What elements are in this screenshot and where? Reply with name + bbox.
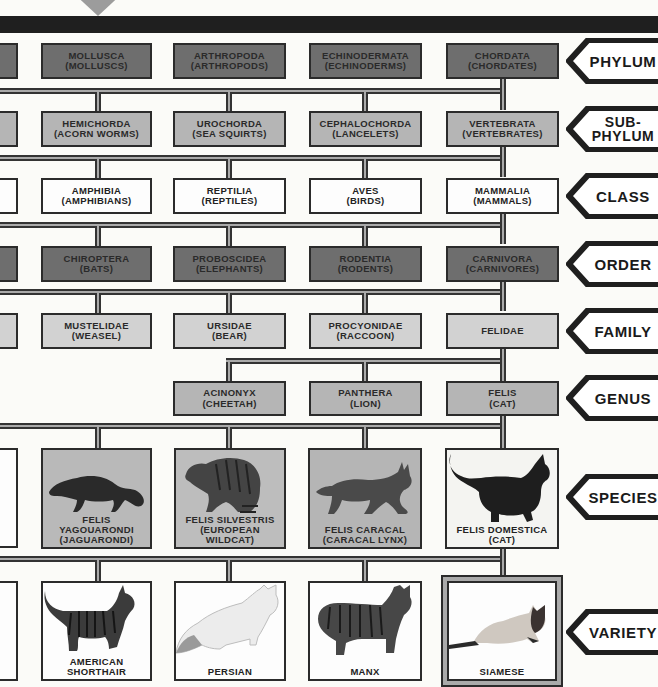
caption-line-3: (CAT)	[447, 535, 557, 545]
connector-class	[0, 155, 506, 161]
american-shorthair-illustration-icon	[43, 583, 150, 659]
connector-family	[0, 289, 506, 295]
variety-caption: SIAMESE	[449, 667, 555, 677]
connector-caracal	[362, 427, 368, 449]
persian-cat-illustration-icon	[176, 583, 284, 659]
subphylum-hemichorda-box: HEMICHORDA (ACORN WORMS)	[41, 111, 152, 147]
subphylum-cephalochorda-box: CEPHALOCHORDA (LANCELETS)	[309, 111, 422, 147]
connector-acinonyx	[226, 362, 232, 382]
taxon-name: PANTHERA	[338, 388, 392, 399]
taxon-name: ACINONYX	[203, 388, 256, 399]
family-procyonidae-box: PROCYONIDAE (RACCOON)	[309, 313, 422, 349]
rank-label-text: FAMILY	[588, 308, 658, 354]
connector-rodentia	[362, 226, 368, 246]
taxon-common-name: (ACORN WORMS)	[54, 129, 139, 140]
family-mustelidae-box: MUSTELIDAE (WEASEL)	[41, 313, 152, 349]
connector-felis-down	[500, 415, 506, 450]
species-caracal-card: FELIS CARACAL (CARACAL LYNX)	[308, 448, 422, 549]
species-silvestris-card: FELIS SILVESTRIS (EUROPEAN WILDCAT)	[174, 448, 286, 549]
rank-label-text: SPECIES	[588, 474, 658, 520]
taxon-common-name: (CAT)	[489, 399, 516, 410]
partial-order-box	[0, 246, 18, 282]
rank-label-text: GENUS	[588, 375, 658, 421]
connector-hemichorda	[95, 92, 101, 112]
genus-acinonyx-box: ACINONYX (CHEETAH)	[173, 381, 286, 416]
variety-caption: AMERICAN SHORTHAIR	[43, 657, 150, 677]
connector-chiroptera	[95, 226, 101, 246]
class-mammalia-box: MAMMALIA (MAMMALS)	[446, 178, 559, 214]
taxon-common-name: (ELEPHANTS)	[196, 264, 263, 275]
species-caption: FELIS SILVESTRIS (EUROPEAN WILDCAT)	[176, 515, 284, 545]
taxon-common-name: (ARTHROPODS)	[191, 61, 269, 72]
order-rodentia-box: RODENTIA (RODENTS)	[309, 246, 422, 282]
rank-label-text: SUB- PHYLUM	[588, 106, 658, 152]
connector-cephalochorda	[362, 92, 368, 112]
taxon-common-name: (BATS)	[80, 264, 113, 275]
connector-amphibia	[95, 159, 101, 179]
family-felidae-box: FELIDAE	[446, 313, 559, 349]
rank-label-variety: VARIETY	[566, 609, 658, 655]
connector-manx	[362, 560, 368, 582]
taxon-common-name: (MAMMALS)	[473, 196, 532, 207]
partial-phylum-box	[0, 43, 18, 79]
taxon-common-name: (RODENTS)	[338, 264, 393, 275]
partial-variety-box	[0, 581, 18, 681]
taxon-common-name: (WEASEL)	[72, 331, 121, 342]
taxon-common-name: (SEA SQUIRTS)	[192, 129, 266, 140]
connector-persian	[226, 560, 232, 582]
species-caption: FELIS YAGOUARONDI (JAGUARONDI)	[43, 515, 150, 545]
domestic-cat-illustration-icon	[447, 450, 557, 530]
rank-label-order: ORDER	[566, 241, 658, 287]
species-caption: FELIS DOMESTICA (CAT)	[447, 525, 557, 545]
caption-line-2: SIAMESE	[449, 667, 555, 677]
taxon-name: FELIS	[488, 388, 516, 399]
class-reptilia-box: REPTILIA (REPTILES)	[173, 178, 286, 214]
rank-label-text: PHYLUM	[588, 38, 658, 84]
phylum-echinodermata-box: ECHINODERMATA (ECHINODERMS)	[309, 43, 422, 79]
phylum-chordata-box: CHORDATA (CHORDATES)	[446, 43, 559, 79]
rank-label-text: ORDER	[588, 241, 658, 287]
european-wildcat-illustration-icon	[176, 450, 284, 520]
caption-line-3: WILDCAT)	[176, 535, 284, 545]
variety-american-shorthair-card: AMERICAN SHORTHAIR	[41, 581, 152, 681]
connector-mustelidae	[95, 293, 101, 313]
variety-persian-card: PERSIAN	[174, 581, 286, 681]
connector-proboscidea	[226, 226, 232, 246]
taxon-common-name: (CHORDATES)	[468, 61, 537, 72]
connector-order	[0, 222, 506, 228]
genus-panthera-box: PANTHERA (LION)	[309, 381, 422, 416]
connector-silvestris	[226, 427, 232, 449]
connector-felidae-down	[500, 346, 506, 382]
rank-label-phylum: PHYLUM	[566, 38, 658, 84]
class-amphibia-box: AMPHIBIA (AMPHIBIANS)	[41, 178, 152, 214]
partial-family-box	[0, 313, 18, 349]
species-caption: FELIS CARACAL (CARACAL LYNX)	[310, 525, 420, 545]
manx-cat-illustration-icon	[310, 583, 420, 663]
species-domestica-card: FELIS DOMESTICA (CAT)	[445, 448, 559, 549]
top-band	[0, 16, 658, 33]
rank-label-text: VARIETY	[588, 609, 658, 655]
rank-label-class: CLASS	[566, 173, 658, 219]
connector-yagouarondi	[95, 427, 101, 449]
rank-label-family: FAMILY	[566, 308, 658, 354]
order-carnivora-box: CARNIVORA (CARNIVORES)	[446, 246, 559, 282]
connector-species	[0, 423, 506, 429]
connector-urochorda	[226, 92, 232, 112]
genus-felis-box: FELIS (CAT)	[446, 381, 559, 416]
taxon-common-name: (CARNIVORES)	[466, 264, 539, 275]
taxon-common-name: (ECHINODERMS)	[325, 61, 406, 72]
taxon-common-name: (LION)	[350, 399, 381, 410]
subphylum-urochorda-box: UROCHORDA (SEA SQUIRTS)	[173, 111, 286, 147]
class-aves-box: AVES (BIRDS)	[309, 178, 422, 214]
connector-reptilia	[226, 159, 232, 179]
partial-subphylum-box	[0, 111, 18, 147]
partial-class-box	[0, 178, 18, 214]
taxon-common-name: (REPTILES)	[202, 196, 258, 207]
jaguarondi-illustration-icon	[43, 450, 150, 520]
top-arrow-pointer	[70, 0, 126, 16]
phylum-arthropoda-box: ARTHROPODA (ARTHROPODS)	[173, 43, 286, 79]
family-ursidae-box: URSIDAE (BEAR)	[173, 313, 286, 349]
rank-label-text: CLASS	[588, 173, 658, 219]
caption-line-3: (CARACAL LYNX)	[310, 535, 420, 545]
taxon-name: FELIDAE	[481, 326, 524, 337]
